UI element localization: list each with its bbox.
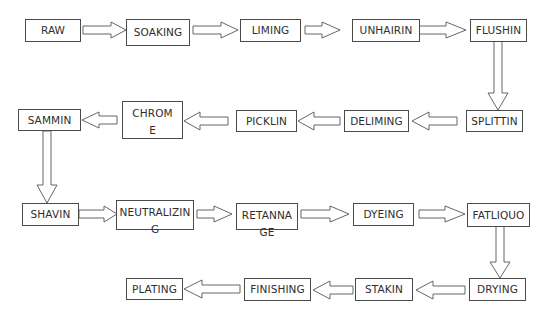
arrow-right-icon xyxy=(419,22,466,38)
step-retannage: RETANNA GE xyxy=(236,203,298,230)
arrow-left-icon xyxy=(184,112,228,130)
arrow-left-icon xyxy=(184,280,240,298)
step-drying: DRYING xyxy=(469,278,526,301)
arrow-left-icon xyxy=(298,112,340,130)
step-plating: PLATING xyxy=(126,278,183,300)
arrow-left-icon xyxy=(313,281,353,299)
arrow-right-icon xyxy=(83,22,126,38)
arrow-right-icon xyxy=(419,206,465,222)
step-picklin: PICKLIN xyxy=(236,110,297,132)
step-splittin: SPLITTIN xyxy=(466,110,523,132)
arrow-down-icon xyxy=(37,131,57,203)
arrow-right-icon xyxy=(305,22,340,38)
step-fatliquo: FATLIQUO xyxy=(467,203,530,227)
arrow-left-icon xyxy=(82,112,117,128)
flow-arrows xyxy=(0,0,550,313)
step-shavin: SHAVIN xyxy=(22,203,79,226)
step-soaking: SOAKING xyxy=(126,19,190,46)
arrow-left-icon xyxy=(412,112,457,130)
arrow-right-icon xyxy=(197,206,232,222)
arrow-down-icon xyxy=(490,226,510,278)
arrow-right-icon xyxy=(193,22,238,38)
arrow-right-icon xyxy=(301,206,349,222)
step-liming: LIMING xyxy=(240,19,301,42)
step-chrome: CHROM E xyxy=(122,101,183,139)
step-unhairin: UNHAIRIN xyxy=(352,19,420,42)
arrow-right-icon xyxy=(79,206,117,222)
step-finishing: FINISHING xyxy=(244,278,311,301)
step-stakin: STAKIN xyxy=(355,278,413,301)
arrow-left-icon xyxy=(416,281,465,299)
step-neutralizing: NEUTRALIZIN G xyxy=(116,200,194,230)
step-deliming: DELIMING xyxy=(344,110,409,132)
step-sammin: SAMMIN xyxy=(18,109,81,131)
arrow-down-icon xyxy=(488,41,508,110)
step-flushin: FLUSHIN xyxy=(470,19,527,42)
step-dyeing: DYEING xyxy=(353,203,414,226)
step-raw: RAW xyxy=(25,19,81,42)
